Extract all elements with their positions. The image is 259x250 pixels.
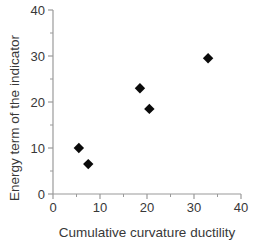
chart-canvas: 010203040010203040 Cumulative curvature … [0,0,259,250]
data-point-marker [135,83,145,93]
data-point-marker [83,159,93,169]
x-tick-label: 40 [234,200,248,215]
data-point-marker [144,104,154,114]
x-tick-label: 30 [187,200,201,215]
data-points [74,53,214,169]
x-axis-label: Cumulative curvature ductility [59,225,236,240]
y-tick-label: 0 [38,187,45,202]
x-tick-label: 20 [140,200,154,215]
tick-labels: 010203040010203040 [31,3,249,216]
y-axis-label: Energy term of the indicator [7,35,22,201]
scatter-chart-figure: 010203040010203040 Cumulative curvature … [0,0,259,250]
x-tick-label: 10 [93,200,107,215]
y-tick-label: 40 [31,3,45,18]
y-tick-label: 10 [31,141,45,156]
y-tick-label: 20 [31,95,45,110]
y-tick-label: 30 [31,49,45,64]
x-tick-label: 0 [49,200,56,215]
tick-marks [48,10,241,199]
axes [53,10,241,194]
data-point-marker [203,53,213,63]
data-point-marker [74,143,84,153]
